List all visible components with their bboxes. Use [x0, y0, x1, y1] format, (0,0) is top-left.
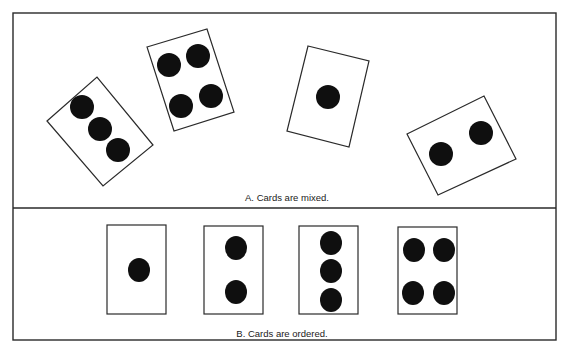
pip: [225, 236, 247, 260]
pip: [106, 138, 130, 162]
pip: [403, 238, 425, 262]
pip: [320, 288, 342, 312]
card-outline: [407, 96, 516, 195]
pip: [169, 94, 193, 118]
card-b-three-pips: [299, 226, 358, 314]
pip: [88, 117, 112, 141]
pip: [320, 259, 342, 283]
card-a-four-pips: [147, 29, 234, 131]
card-a-three-pips: [47, 77, 153, 186]
pip: [157, 53, 181, 77]
pip: [433, 238, 455, 262]
pip: [225, 280, 247, 304]
pip: [320, 231, 342, 255]
pip: [469, 121, 493, 145]
card-b-two-pips: [204, 226, 263, 314]
card-b-four-pips: [398, 227, 457, 314]
pip: [316, 85, 340, 109]
card-b-one-pip: [107, 225, 166, 314]
panel-b-ordered: B. Cards are ordered.: [107, 225, 457, 339]
card-outline: [147, 29, 234, 131]
pip: [402, 281, 424, 305]
pip: [128, 258, 150, 282]
panel-a-mixed: A. Cards are mixed.: [47, 29, 516, 203]
cards-diagram: A. Cards are mixed. B. Cards are ordered…: [0, 0, 568, 357]
pip: [70, 95, 94, 119]
pip: [433, 281, 455, 305]
pip: [186, 44, 210, 68]
panel-b-caption: B. Cards are ordered.: [236, 328, 327, 339]
pip: [199, 84, 223, 108]
pip: [429, 142, 453, 166]
card-a-two-pips: [407, 96, 516, 195]
card-a-one-pip: [287, 46, 369, 147]
panel-a-caption: A. Cards are mixed.: [245, 192, 329, 203]
